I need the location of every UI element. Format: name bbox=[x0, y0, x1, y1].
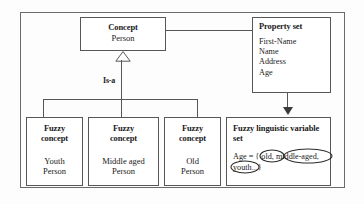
fuzzy-concept-body-line2: Person bbox=[165, 166, 220, 176]
fuzzy-concept-body-line2: Person bbox=[27, 166, 82, 176]
hollow-triangle-icon bbox=[115, 51, 131, 62]
solid-arrowhead-icon bbox=[283, 107, 293, 115]
isa-drop-line-middle-aged bbox=[121, 99, 122, 117]
fuzzy-concept-body-line1: Middle aged bbox=[89, 156, 158, 166]
concept-title: Concept bbox=[81, 23, 165, 33]
flv-expression-suffix: ...} bbox=[252, 163, 262, 172]
fuzzy-concept-title-line2: concept bbox=[89, 134, 158, 144]
flv-expression-prefix: Age = { bbox=[233, 152, 259, 161]
spacer bbox=[27, 143, 82, 156]
flv-term-youth: youth bbox=[233, 163, 252, 172]
spacer bbox=[89, 143, 158, 156]
property-set-title: Property set bbox=[259, 22, 330, 32]
fuzzy-concept-body-line1: Old bbox=[165, 156, 220, 166]
flv-title-line2: set bbox=[233, 133, 330, 143]
fuzzy-concept-title-line2: concept bbox=[27, 134, 82, 144]
property-set-box[interactable]: Property set First-Name Name Address Age bbox=[252, 17, 331, 93]
isa-stem-line bbox=[121, 60, 122, 99]
fuzzy-concept-box-middle-aged[interactable]: Fuzzy concept Middle aged Person bbox=[88, 117, 159, 186]
fuzzy-linguistic-variable-set-box[interactable]: Fuzzy linguistic variable set Age = { ol… bbox=[226, 117, 331, 186]
concept-body: Person bbox=[81, 33, 165, 43]
property-item-age: Age bbox=[259, 68, 330, 78]
fuzzy-concept-box-youth[interactable]: Fuzzy concept Youth Person bbox=[26, 117, 83, 186]
isa-drop-line-old bbox=[197, 99, 198, 117]
flv-expression: Age = { old, middle-aged, youth...} bbox=[233, 151, 332, 173]
isa-relation-label: Is-a bbox=[103, 76, 115, 85]
flv-term-old: old, bbox=[261, 152, 274, 161]
fuzzy-concept-box-old[interactable]: Fuzzy concept Old Person bbox=[164, 117, 221, 186]
diagram-canvas: Is-a Concept Person Property set First-N… bbox=[0, 0, 364, 204]
property-item-address: Address bbox=[259, 57, 330, 67]
flv-term-middle-aged: middle-aged, bbox=[276, 152, 319, 161]
property-item-first-name: First-Name bbox=[259, 37, 330, 47]
isa-drop-line-youth bbox=[43, 99, 44, 117]
fuzzy-concept-body-line2: Person bbox=[89, 166, 158, 176]
fuzzy-concept-title-line2: concept bbox=[165, 134, 220, 144]
concept-property-association-line bbox=[166, 30, 252, 31]
property-item-name: Name bbox=[259, 47, 330, 57]
concept-class-box[interactable]: Concept Person bbox=[80, 17, 166, 51]
fuzzy-concept-body-line1: Youth bbox=[27, 156, 82, 166]
spacer bbox=[165, 143, 220, 156]
flv-title-line1: Fuzzy linguistic variable bbox=[233, 123, 330, 133]
